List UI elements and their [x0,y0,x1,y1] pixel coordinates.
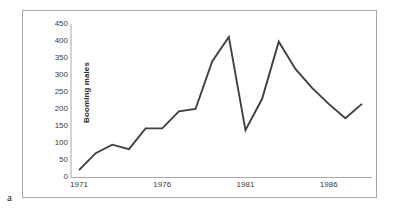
figure-panel: a Booming males 450400350300250200150100… [0,0,394,217]
data-series-line [79,37,362,170]
plot-area [0,0,394,217]
